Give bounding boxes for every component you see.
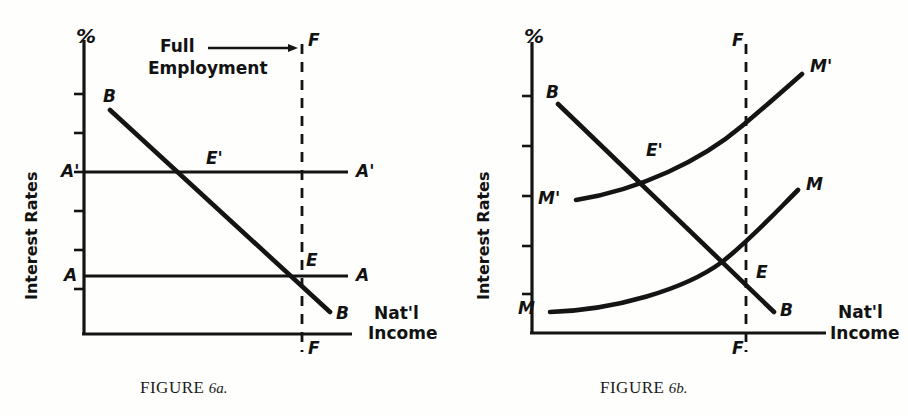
curve-bb-start-label: B	[546, 84, 559, 101]
full-employment-label-line2: Employment	[148, 60, 268, 77]
curve-mm-prime-start-label: M'	[538, 190, 560, 207]
curve-a-prime-end-label: A'	[356, 163, 374, 180]
curve-bb-end-label: B	[336, 305, 349, 322]
x-axis-title-line2: Income	[368, 325, 437, 342]
curve-mm-prime-line	[576, 74, 802, 200]
equilibrium-label: E	[756, 264, 768, 281]
figure-sheet: % Interest Rates Nat'l Income Full Emplo…	[0, 0, 908, 416]
curve-a-start-label: A	[64, 267, 77, 284]
figure-6a-caption: FIGURE 6a.	[140, 378, 228, 398]
curve-mm-prime-end-label: M'	[810, 58, 832, 75]
figure-6a-panel: % Interest Rates Nat'l Income Full Emplo…	[0, 0, 454, 416]
curve-mm-start-label: M	[518, 300, 535, 317]
full-employment-label-line1: Full	[160, 38, 195, 55]
figure-6b-caption-prefix: FIGURE	[600, 378, 664, 397]
equilibrium-label: E	[306, 252, 318, 269]
x-axis-title-line2: Income	[830, 325, 899, 342]
figure-6b-drawing	[454, 0, 908, 416]
figure-6a-caption-prefix: FIGURE	[140, 378, 204, 397]
figure-6b-caption: FIGURE 6b.	[600, 378, 688, 398]
curve-a-end-label: A	[356, 267, 369, 284]
curve-bb-line	[110, 110, 330, 312]
x-axis-title-line1: Nat'l	[374, 305, 419, 322]
x-axis-title-line1: Nat'l	[838, 304, 883, 321]
y-axis-unit-label: %	[524, 26, 544, 46]
curve-mm-line	[550, 190, 798, 312]
curve-a-prime-start-label: A'	[61, 163, 79, 180]
full-employment-marker-bottom: F	[308, 340, 320, 357]
full-employment-marker-top: F	[732, 32, 744, 49]
equilibrium-prime-label: E'	[206, 150, 223, 167]
y-axis-title: Interest Rates	[474, 172, 493, 300]
full-employment-arrow	[208, 44, 298, 52]
figure-6b-panel: % Interest Rates Nat'l Income F F B B M …	[454, 0, 908, 416]
y-axis-title: Interest Rates	[22, 172, 41, 300]
figure-6a-caption-number: 6a.	[209, 380, 228, 396]
figure-6b-caption-number: 6b.	[669, 380, 688, 396]
full-employment-marker-bottom: F	[732, 340, 744, 357]
curve-mm-end-label: M	[806, 176, 823, 193]
curve-bb-end-label: B	[780, 302, 793, 319]
full-employment-marker-top: F	[308, 32, 320, 49]
y-axis-unit-label: %	[76, 26, 96, 46]
curve-bb-start-label: B	[103, 88, 116, 105]
curve-bb-line	[558, 104, 774, 312]
equilibrium-prime-label: E'	[646, 142, 663, 159]
